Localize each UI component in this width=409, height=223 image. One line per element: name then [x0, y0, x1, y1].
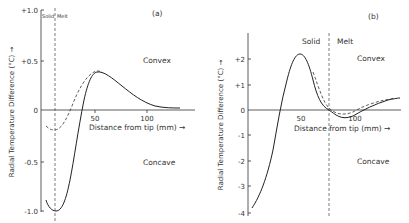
y-axis-label-b: Radial Temperature Difference (°C) →: [217, 60, 225, 191]
solid-label-b: Solid: [302, 37, 321, 46]
melt-label-a: Melt: [57, 13, 68, 19]
y-tick-a-1: +0.5: [21, 58, 38, 66]
x-axis-label-b: Distance from tip (mm) →: [294, 124, 390, 133]
x-tick-b-100: 100: [348, 115, 361, 123]
y-axis-label-a: Radial Temperature Difference (°C) →: [8, 47, 16, 178]
convex-label-b: Convex: [357, 54, 385, 63]
y-tick-a-3: -0.5: [24, 159, 38, 167]
solid-curve-a: [46, 72, 180, 211]
y-tick-b-6: -4: [238, 210, 246, 218]
y-tick-b-5: -3: [238, 183, 245, 191]
concave-label-a: Concave: [143, 158, 176, 167]
solid-label-a: Solid: [42, 13, 54, 19]
concave-label-b: Concave: [357, 157, 390, 166]
x-tick-a-50: 50: [91, 115, 100, 123]
chart-panel-b: +2 +1 0 -1 -2 -3 -4 50 100 Distance from…: [205, 0, 409, 223]
panel-title-a: (a): [152, 9, 163, 18]
y-tick-b-1: +1: [235, 82, 245, 90]
y-tick-b-0: +2: [235, 56, 245, 64]
chart-panel-a: +1.0 +0.5 0 -0.5 -1.0 50 100 Distance fr…: [0, 0, 205, 223]
chart-a-canvas: +1.0 +0.5 0 -0.5 -1.0 50 100 Distance fr…: [0, 0, 205, 223]
y-tick-a-2: 0: [34, 107, 38, 115]
x-tick-a-100: 100: [140, 115, 153, 123]
y-tick-b-4: -2: [238, 158, 245, 166]
convex-label-a: Convex: [143, 56, 171, 65]
x-axis-label-a: Distance from tip (mm) →: [89, 123, 185, 132]
chart-b-canvas: +2 +1 0 -1 -2 -3 -4 50 100 Distance from…: [205, 0, 409, 223]
melt-label-b: Melt: [337, 37, 353, 46]
panel-title-b: (b): [368, 12, 379, 21]
y-tick-b-2: 0: [241, 107, 245, 115]
y-tick-a-4: -1.0: [24, 208, 38, 216]
y-tick-a-0: +1.0: [21, 7, 38, 15]
y-tick-b-3: -1: [238, 132, 245, 140]
x-tick-b-50: 50: [297, 115, 306, 123]
